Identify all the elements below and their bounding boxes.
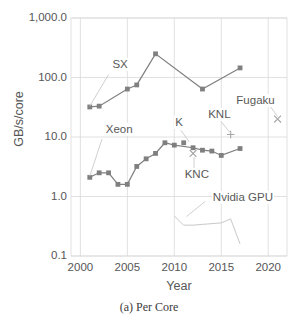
data-point-marker bbox=[191, 145, 196, 150]
data-point-marker bbox=[172, 143, 177, 148]
data-point-marker bbox=[134, 164, 139, 169]
x-tick-label: 2010 bbox=[152, 261, 196, 273]
annotation-label-fugaku: Fugaku bbox=[235, 94, 275, 107]
data-point-marker bbox=[125, 182, 130, 187]
plot-canvas bbox=[0, 0, 298, 326]
data-point-marker bbox=[163, 140, 168, 145]
data-point-marker bbox=[116, 182, 121, 187]
data-point-marker bbox=[97, 104, 102, 109]
annotation-label-k: K bbox=[174, 116, 184, 129]
data-point-marker bbox=[200, 148, 205, 153]
data-point-marker bbox=[134, 83, 139, 88]
data-point-marker bbox=[200, 87, 205, 92]
x-tick-label: 2005 bbox=[105, 261, 149, 273]
data-point-marker bbox=[153, 51, 158, 56]
annotation-label-knc: KNC bbox=[184, 168, 210, 181]
x-tick-label: 2000 bbox=[58, 261, 102, 273]
data-point-marker bbox=[106, 170, 111, 175]
series-k bbox=[181, 140, 186, 145]
data-point-marker bbox=[97, 170, 102, 175]
annotation-label-sx: SX bbox=[111, 58, 128, 71]
x-tick-label: 2015 bbox=[199, 261, 243, 273]
figure-caption: (a) Per Core bbox=[0, 300, 298, 315]
x-axis-title: Year bbox=[71, 279, 287, 293]
annotation-label-knl: KNL bbox=[207, 108, 231, 121]
data-point-marker bbox=[87, 105, 92, 110]
data-point-marker bbox=[209, 149, 214, 154]
data-point-marker bbox=[144, 156, 149, 161]
x-tick-label: 2020 bbox=[246, 261, 290, 273]
data-point-marker bbox=[238, 146, 243, 151]
data-point-marker bbox=[125, 87, 130, 92]
data-point-marker bbox=[153, 151, 158, 156]
data-point-marker bbox=[219, 153, 224, 158]
annotation-label-nvidia-gpu: Nvidia GPU bbox=[212, 191, 274, 204]
data-point-marker bbox=[238, 65, 243, 70]
annotation-label-xeon: Xeon bbox=[105, 123, 134, 136]
data-point-marker bbox=[181, 140, 186, 145]
chart-figure: GB/s/core 1,000.0 100.0 10.0 1.0 0.1 SXX… bbox=[0, 0, 298, 326]
